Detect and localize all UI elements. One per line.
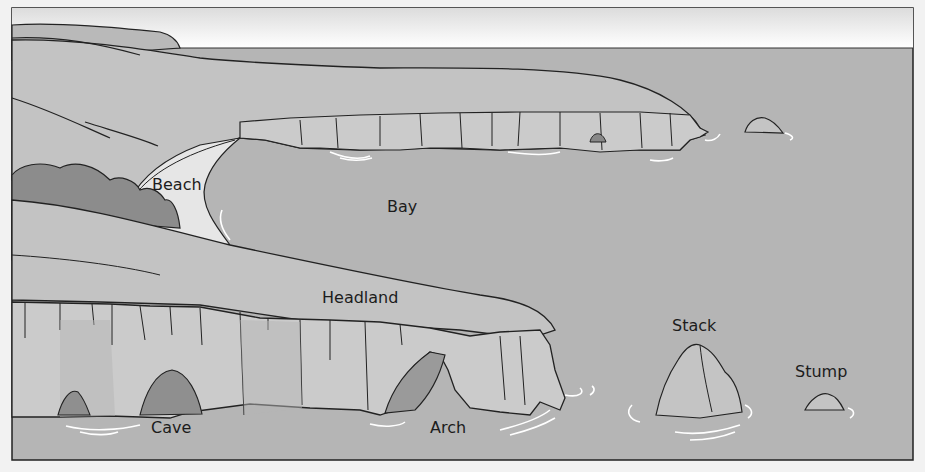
label-stump: Stump: [795, 362, 847, 381]
label-beach: Beach: [152, 175, 202, 194]
label-headland: Headland: [322, 288, 398, 307]
coastal-landforms-diagram: [0, 0, 925, 472]
label-bay: Bay: [387, 197, 417, 216]
label-arch: Arch: [430, 418, 466, 437]
label-cave: Cave: [151, 418, 191, 437]
upper-cliff-face: [240, 112, 708, 152]
label-stack: Stack: [672, 316, 716, 335]
